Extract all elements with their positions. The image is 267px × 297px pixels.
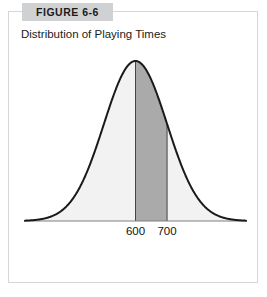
figure-container: FIGURE 6-6 Distribution of Playing Times <box>8 11 258 283</box>
chart-svg <box>8 49 258 249</box>
frame-border-bottom <box>8 282 258 283</box>
figure-number-badge: FIGURE 6-6 <box>22 3 113 21</box>
frame-border-top-right <box>113 11 258 12</box>
tick-label-600: 600 <box>126 225 145 237</box>
normal-distribution-chart <box>8 49 258 249</box>
figure-caption: Distribution of Playing Times <box>21 28 166 40</box>
tick-label-700: 700 <box>157 225 176 237</box>
frame-border-top-left <box>8 11 22 12</box>
x-axis-tick-labels: 600 700 <box>8 225 258 243</box>
